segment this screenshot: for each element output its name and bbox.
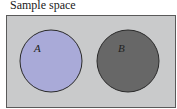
set-a-circle bbox=[20, 30, 82, 92]
set-b-circle bbox=[97, 30, 159, 92]
set-b-label: B bbox=[118, 42, 125, 54]
venn-diagram: A B bbox=[0, 0, 177, 109]
set-a-label: A bbox=[33, 42, 41, 54]
